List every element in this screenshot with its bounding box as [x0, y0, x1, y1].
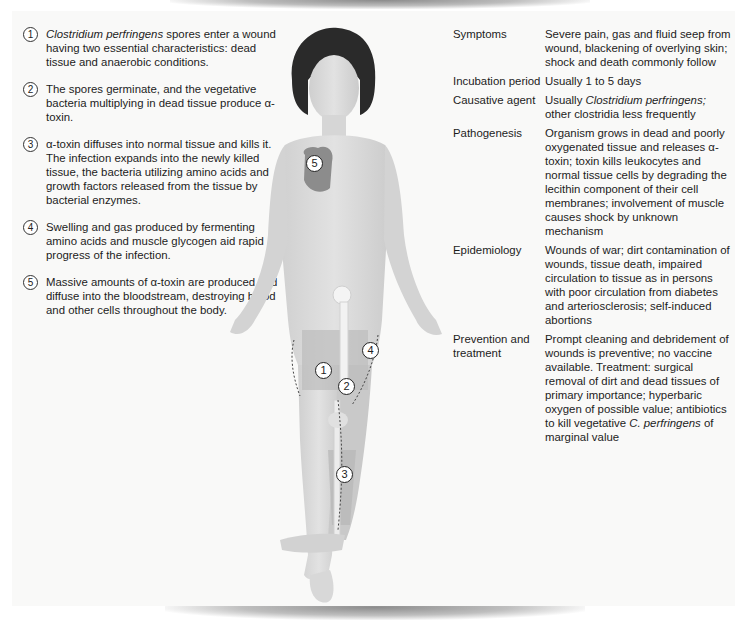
step-number: 4 [23, 220, 38, 235]
organism-name: C. perfringens [629, 417, 701, 429]
info-label: Symptoms [453, 27, 545, 69]
info-value: Wounds of war; dirt contamination of wou… [545, 243, 733, 327]
info-value: Prompt cleaning and debridement of wound… [545, 332, 733, 444]
info-row-causative-agent: Causative agent Usually Clostridium perf… [453, 93, 735, 121]
info-value: Usually Clostridium perfringens; other c… [545, 93, 733, 121]
info-label: Prevention and treatment [453, 332, 545, 444]
marker-2-germination: 2 [338, 378, 355, 395]
step-number: 3 [23, 137, 38, 152]
marker-4-swelling: 4 [362, 342, 379, 359]
value-text: other clostridia less frequently [545, 108, 696, 120]
disease-info-table: Symptoms Severe pain, gas and fluid seep… [453, 27, 735, 449]
step-number: 2 [23, 82, 38, 97]
info-label: Causative agent [453, 93, 545, 121]
body-drawing [210, 20, 460, 610]
info-label: Incubation period [453, 74, 545, 88]
page-shadow-top [170, 0, 590, 9]
organism-name: Clostridium perfringens; [586, 94, 706, 106]
info-value: Organism grows in dead and poorly oxygen… [545, 126, 733, 238]
step-number: 1 [23, 27, 38, 42]
info-row-pathogenesis: Pathogenesis Organism grows in dead and … [453, 126, 735, 238]
info-row-incubation: Incubation period Usually 1 to 5 days [453, 74, 735, 88]
human-figure-illustration: 5 1 4 2 3 [210, 20, 460, 610]
info-row-symptoms: Symptoms Severe pain, gas and fluid seep… [453, 27, 735, 69]
info-row-prevention: Prevention and treatment Prompt cleaning… [453, 332, 735, 444]
marker-3-spread: 3 [336, 466, 353, 483]
marker-5-heart: 5 [306, 155, 323, 172]
info-label: Pathogenesis [453, 126, 545, 238]
value-text: Usually [545, 94, 586, 106]
info-row-epidemiology: Epidemiology Wounds of war; dirt contami… [453, 243, 735, 327]
value-text: Prompt cleaning and debridement of wound… [545, 333, 729, 429]
marker-1-wound: 1 [315, 362, 332, 379]
step-number: 5 [23, 275, 38, 290]
info-label: Epidemiology [453, 243, 545, 327]
info-value: Usually 1 to 5 days [545, 74, 733, 88]
info-value: Severe pain, gas and fluid seep from wou… [545, 27, 733, 69]
organism-name: Clostridium perfringens [46, 28, 163, 40]
